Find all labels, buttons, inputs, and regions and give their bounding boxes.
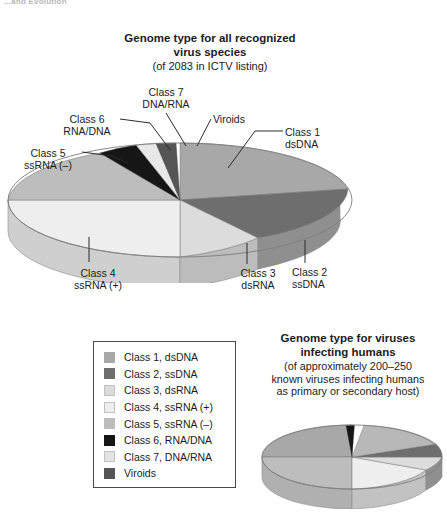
legend-label: Class 2, ssDNA (124, 368, 198, 380)
callout-viroids: Viroids (213, 113, 273, 125)
legend-label: Viroids (124, 467, 156, 479)
callout-class6: Class 6RNA/DNA (56, 113, 118, 137)
legend-item: Class 2, ssDNA (94, 366, 235, 383)
legend-item: Class 5, ssRNA (–) (94, 415, 235, 432)
legend-item: Class 7, DNA/RNA (94, 449, 235, 466)
legend-swatch (104, 451, 115, 462)
main-chart-title: Genome type for all recognizedvirus spec… (80, 31, 340, 59)
legend-swatch (104, 435, 115, 446)
main-chart-subtitle: (of 2083 in ICTV listing) (80, 60, 340, 73)
legend-label: Class 7, DNA/RNA (124, 451, 212, 463)
legend-item: Class 4, ssRNA (+) (94, 399, 235, 416)
legend-swatch (104, 352, 115, 363)
legend-item: Class 6, RNA/DNA (94, 432, 235, 449)
secondary-pie-chart (258, 417, 446, 509)
legend-item: Class 1, dsDNA (94, 349, 235, 366)
legend-box: Class 1, dsDNAClass 2, ssDNAClass 3, dsR… (93, 341, 236, 488)
sec-slice-class1 (262, 425, 352, 457)
legend-swatch (104, 402, 115, 413)
callout-class1: Class 1dsDNA (285, 126, 351, 150)
legend-swatch (104, 468, 115, 479)
callout-class2: Class 2ssDNA (292, 266, 354, 290)
callout-class7: Class 7DNA/RNA (133, 86, 199, 110)
legend-label: Class 1, dsDNA (124, 351, 198, 363)
running-head: ...and Evolution (4, 0, 67, 6)
secondary-chart-subtitle: (of approximately 200–250known viruses i… (248, 360, 447, 398)
callout-class3: Class 3dsRNA (228, 267, 288, 291)
legend-label: Class 4, ssRNA (+) (124, 401, 213, 413)
secondary-chart-title: Genome type for virusesinfecting humans (252, 331, 444, 359)
legend-label: Class 5, ssRNA (–) (124, 418, 213, 430)
figure-page: ...and Evolution Genome type for all rec… (0, 0, 447, 515)
legend-list: Class 1, dsDNAClass 2, ssDNAClass 3, dsR… (94, 342, 235, 482)
callout-class5: Class 5ssRNA (–) (16, 147, 80, 171)
legend-item: Class 3, dsRNA (94, 382, 235, 399)
legend-swatch (104, 385, 115, 396)
callout-class4: Class 4ssRNA (+) (61, 267, 135, 291)
legend-swatch (104, 418, 115, 429)
legend-swatch (104, 368, 115, 379)
legend-label: Class 6, RNA/DNA (124, 434, 212, 446)
secondary-pie-svg (258, 417, 446, 509)
legend-label: Class 3, dsRNA (124, 384, 198, 396)
legend-item: Viroids (94, 465, 235, 482)
